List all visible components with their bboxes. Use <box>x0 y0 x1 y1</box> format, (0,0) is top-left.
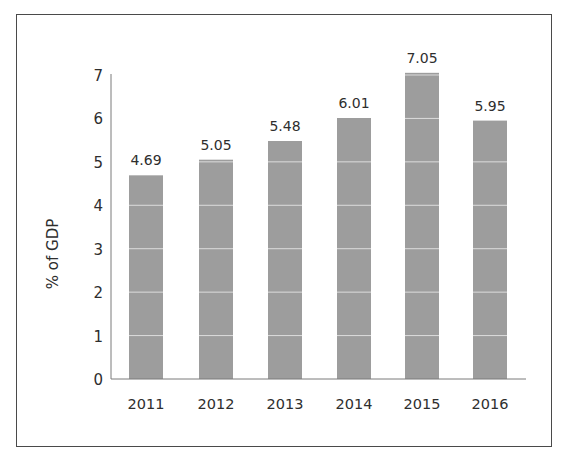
bars-group <box>129 73 507 379</box>
category-label: 2013 <box>267 396 304 412</box>
y-tick-label: 5 <box>93 154 103 172</box>
value-label: 5.05 <box>200 137 231 153</box>
category-label: 2012 <box>198 396 235 412</box>
y-tick-label: 3 <box>93 241 103 259</box>
category-label: 2011 <box>128 396 165 412</box>
y-axis-label: % of GDP <box>44 219 62 289</box>
value-label: 7.05 <box>406 50 437 66</box>
bar-2011 <box>129 175 163 379</box>
y-tick-labels: 01234567 <box>93 67 103 389</box>
value-label: 5.48 <box>269 118 300 134</box>
category-label: 2014 <box>336 396 373 412</box>
bar-2016 <box>473 121 507 379</box>
y-tick-label: 2 <box>93 284 103 302</box>
bar-2012 <box>199 160 233 379</box>
y-tick-label: 1 <box>93 328 103 346</box>
value-labels: 4.695.055.486.017.055.95 <box>130 50 505 168</box>
category-label: 2015 <box>404 396 441 412</box>
bar-2013 <box>268 141 302 379</box>
category-label: 2016 <box>472 396 509 412</box>
bar-gridlines <box>129 75 507 336</box>
value-label: 6.01 <box>338 95 369 111</box>
value-label: 5.95 <box>474 98 505 114</box>
y-tick-label: 4 <box>93 197 103 215</box>
y-tick-label: 0 <box>93 371 103 389</box>
value-label: 4.69 <box>130 152 161 168</box>
axes-group <box>111 74 526 379</box>
y-tick-label: 6 <box>93 110 103 128</box>
category-labels: 201120122013201420152016 <box>128 396 509 412</box>
bar-chart: 01234567 4.695.055.486.017.055.95 201120… <box>0 0 566 459</box>
y-tick-label: 7 <box>93 67 103 85</box>
